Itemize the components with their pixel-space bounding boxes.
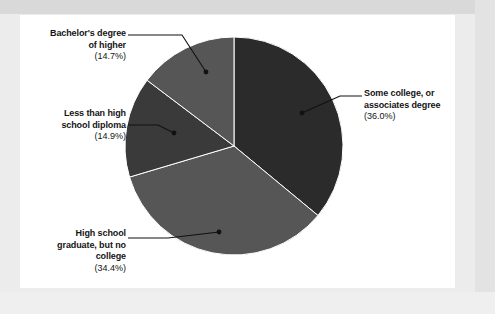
leader-dot-bachelors [204, 70, 209, 75]
pie-chart-figure: Bachelor's degree of higher (14.7%) Less… [0, 0, 495, 314]
callout-label-bachelors-degree: Bachelor's degree of higher (14.7%) [8, 28, 126, 63]
callout-highschool-percent: (34.4%) [8, 263, 126, 275]
callout-somecollege-line1: Some college, or [364, 88, 490, 100]
leader-dot-less-than-high-school [172, 131, 177, 136]
leader-dot-some-college [300, 111, 305, 116]
callout-bachelors-line1: Bachelor's degree [8, 28, 126, 40]
callout-lessthanhs-line2: school diploma [12, 120, 126, 132]
callout-label-some-college: Some college, or associates degree (36.0… [364, 88, 490, 123]
pie-slices [125, 37, 343, 255]
callout-label-less-than-high-school: Less than high school diploma (14.9%) [12, 108, 126, 143]
callout-bachelors-percent: (14.7%) [8, 51, 126, 63]
callout-highschool-line2: graduate, but no [8, 240, 126, 252]
callout-somecollege-line2: associates degree [364, 100, 490, 112]
leader-dot-high-school [217, 230, 222, 235]
callout-somecollege-percent: (36.0%) [364, 111, 490, 123]
callout-highschool-line3: college [8, 251, 126, 263]
callout-lessthanhs-percent: (14.9%) [12, 131, 126, 143]
callout-highschool-line1: High school [8, 228, 126, 240]
callout-lessthanhs-line1: Less than high [12, 108, 126, 120]
callout-label-high-school-graduate: High school graduate, but no college (34… [8, 228, 126, 274]
callout-bachelors-line2: of higher [8, 40, 126, 52]
